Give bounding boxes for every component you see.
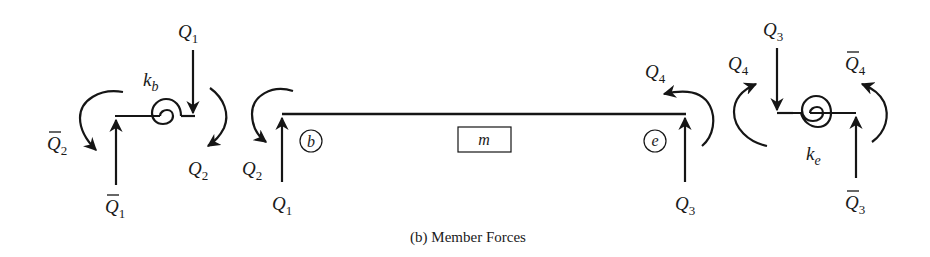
member-q2-moment-arrow-icon <box>252 89 293 142</box>
member-q4-label: Q4 <box>645 61 666 86</box>
q4-left-label: Q4 <box>728 53 749 78</box>
qbar3-bottom-label: Q3 <box>845 192 865 217</box>
q2-moment-arrow-icon <box>208 88 226 146</box>
member-q1-label: Q1 <box>272 193 292 218</box>
q2-right-label: Q2 <box>188 158 208 183</box>
q3-top-label: Q3 <box>763 19 783 44</box>
qbar2-left-label: Q2 <box>47 133 67 158</box>
figure-caption: (b) Member Forces <box>410 229 526 246</box>
member-label: m <box>478 131 490 148</box>
member-group: b e m Q2 Q1 Q4 Q3 <box>242 61 713 218</box>
kb-label: kb <box>143 69 158 94</box>
q1-top-label: Q1 <box>178 21 198 46</box>
left-spring-group: kb Q1 Q2 Q2 Q1 <box>47 21 226 221</box>
member-q2-label: Q2 <box>242 158 262 183</box>
qbar1-bottom-label: Q1 <box>105 196 125 221</box>
q4-moment-arrow-icon <box>734 84 767 146</box>
member-forces-diagram: kb Q1 Q2 Q2 Q1 b e m Q2 Q1 Q4 Q3 <box>0 0 930 257</box>
member-q4-moment-arrow-icon <box>664 92 713 146</box>
qbar4-moment-arrow-icon <box>862 84 887 142</box>
member-q3-label: Q3 <box>675 193 695 218</box>
ke-label: ke <box>806 143 821 168</box>
right-spring-group: Q3 Q4 Q4 ke Q3 <box>728 19 887 217</box>
spiral-spring-icon <box>793 96 831 127</box>
qbar4-right-label: Q4 <box>845 53 866 78</box>
begin-node-label: b <box>307 133 315 150</box>
end-node-label: e <box>651 132 658 149</box>
spiral-spring-icon <box>152 99 181 124</box>
